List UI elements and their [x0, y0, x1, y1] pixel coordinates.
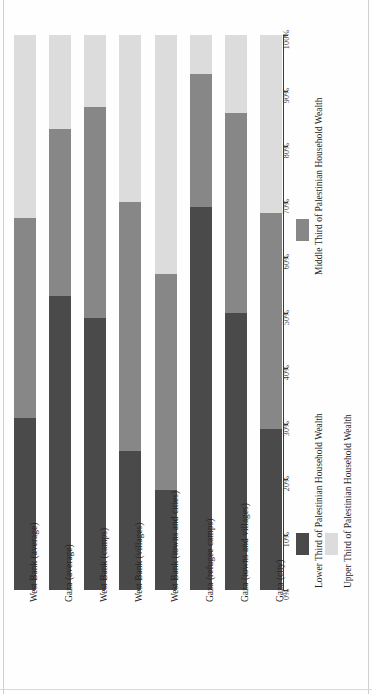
bar-west-bank-villages[interactable]: [119, 35, 141, 590]
category-label: West Bank (towns and cities): [170, 491, 180, 602]
bar-segment-middle-third[interactable]: [155, 274, 177, 490]
legend-label: Middle Third of Palestinian Household We…: [314, 97, 324, 275]
legend-label: Lower Third of Palestinian Household Wea…: [314, 413, 324, 588]
bar-segment-upper-third[interactable]: [225, 35, 247, 113]
category-label: West Bank (camps): [99, 528, 109, 602]
bar-segment-upper-third[interactable]: [84, 35, 106, 107]
bar-gaza-average[interactable]: [49, 35, 71, 590]
axis-tick-label: 100%: [282, 30, 291, 49]
axis-tick-label: 90%: [282, 87, 291, 102]
bar-segment-upper-third[interactable]: [190, 35, 212, 74]
category-label: Gaza (towns and villages): [240, 503, 250, 602]
bar-west-bank-average[interactable]: [14, 35, 36, 590]
bar-segment-upper-third[interactable]: [260, 35, 282, 213]
axis-tick-label: 50%: [282, 309, 291, 324]
scanned-page: 0%10%20%30%40%50%60%70%80%90%100% West B…: [0, 0, 372, 694]
stacked-bar-chart-figure: 0%10%20%30%40%50%60%70%80%90%100% West B…: [0, 0, 372, 694]
bar-west-bank-camps[interactable]: [84, 35, 106, 590]
bar-segment-middle-third[interactable]: [84, 107, 106, 318]
category-label: Gaza (average): [64, 544, 74, 602]
axis-tick-label: 40%: [282, 365, 291, 380]
bar-segment-middle-third[interactable]: [225, 113, 247, 313]
category-label: West Bank (average): [29, 523, 39, 602]
bar-segment-upper-third[interactable]: [49, 35, 71, 129]
bar-segment-upper-third[interactable]: [14, 35, 36, 218]
bar-gaza-refugee-camps[interactable]: [190, 35, 212, 590]
bar-segment-middle-third[interactable]: [190, 74, 212, 207]
axis-tick-label: 70%: [282, 198, 291, 213]
bar-segment-middle-third[interactable]: [49, 129, 71, 296]
axis-tick-label: 10%: [282, 531, 291, 546]
bar-segment-middle-third[interactable]: [14, 218, 36, 418]
category-label: Gaza (refugee camps): [205, 519, 215, 602]
category-label: West Bank (villages): [134, 523, 144, 602]
bar-segment-upper-third[interactable]: [119, 35, 141, 202]
legend-swatch[interactable]: [296, 533, 309, 555]
legend-swatch[interactable]: [296, 219, 309, 241]
category-label: Gaza (city): [275, 560, 285, 602]
legend-label: Upper Third of Palestinian Household Wea…: [343, 414, 353, 588]
bar-gaza-city[interactable]: [260, 35, 282, 590]
axis-tick-label: 20%: [282, 476, 291, 491]
bar-segment-middle-third[interactable]: [260, 213, 282, 429]
bar-segment-upper-third[interactable]: [155, 35, 177, 274]
bar-segment-middle-third[interactable]: [119, 202, 141, 452]
axis-tick-label: 60%: [282, 254, 291, 269]
axis-tick-label: 80%: [282, 143, 291, 158]
axis-tick-label: 30%: [282, 420, 291, 435]
legend-swatch[interactable]: [325, 533, 338, 555]
